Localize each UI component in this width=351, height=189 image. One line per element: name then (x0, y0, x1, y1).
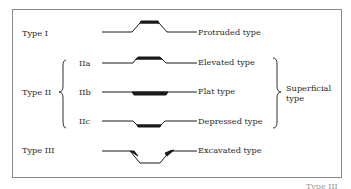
protruded-profile-icon (102, 21, 197, 32)
elevated-profile-icon (102, 57, 197, 63)
excavated-profile-icon (102, 150, 197, 163)
lesion-profiles (0, 0, 351, 189)
depressed-profile-icon (102, 121, 197, 127)
right-brace-icon (273, 58, 281, 128)
left-brace-icon (59, 60, 66, 128)
flat-profile-icon (102, 92, 197, 95)
